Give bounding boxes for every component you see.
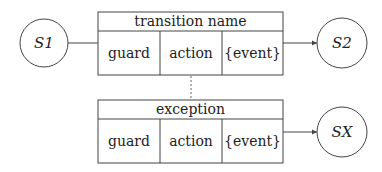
transition-event: {event} bbox=[224, 45, 281, 61]
transition-guard: guard bbox=[108, 45, 150, 61]
diagram-canvas: S1 transition name guard action {event} … bbox=[0, 0, 382, 172]
state-sx-label: SX bbox=[332, 123, 354, 141]
exception-title: exception bbox=[156, 101, 225, 117]
exception-box: exception guard action {event} bbox=[98, 100, 283, 163]
exception-guard: guard bbox=[108, 133, 150, 149]
transition-action: action bbox=[169, 45, 213, 61]
state-s2: S2 bbox=[317, 18, 367, 68]
transition-box: transition name guard action {event} bbox=[98, 12, 283, 75]
state-sx: SX bbox=[317, 107, 367, 157]
state-s2-label: S2 bbox=[332, 34, 352, 52]
exception-event: {event} bbox=[224, 133, 281, 149]
state-s1-label: S1 bbox=[34, 34, 54, 52]
exception-action: action bbox=[169, 133, 213, 149]
state-s1: S1 bbox=[20, 19, 68, 67]
transition-title: transition name bbox=[134, 13, 246, 29]
